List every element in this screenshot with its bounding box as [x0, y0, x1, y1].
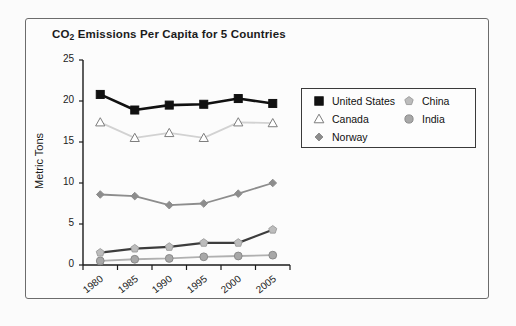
marker-square	[315, 97, 323, 105]
series-line	[100, 94, 273, 110]
marker-pentagon	[234, 239, 242, 247]
series-line	[100, 230, 273, 253]
series-line	[100, 183, 273, 205]
marker-square	[165, 101, 173, 109]
marker-diamond	[200, 200, 208, 208]
marker-diamond	[234, 190, 242, 198]
marker-pentagon	[405, 97, 413, 105]
marker-circle	[165, 255, 173, 263]
y-tick-label: 15	[50, 135, 74, 146]
marker-triangle	[165, 128, 174, 136]
marker-circle	[200, 253, 208, 261]
legend-item-united-states[interactable]: United States	[312, 95, 395, 107]
chart-legend: United StatesCanadaNorwayChinaIndia	[301, 88, 476, 148]
series-canada	[96, 118, 278, 142]
legend-label: India	[422, 113, 445, 125]
marker-pentagon	[131, 244, 139, 252]
legend-label: Canada	[332, 113, 369, 125]
plot-area	[0, 0, 516, 326]
series-line	[100, 255, 273, 261]
marker-circle	[405, 115, 413, 123]
series-china	[96, 226, 276, 257]
legend-item-india[interactable]: India	[402, 113, 445, 125]
legend-marker-square-icon	[312, 95, 326, 107]
marker-square	[200, 100, 208, 108]
marker-square	[269, 99, 277, 107]
legend-marker-pentagon-icon	[402, 95, 416, 107]
marker-circle	[96, 257, 104, 265]
marker-pentagon	[269, 226, 277, 234]
legend-label: China	[422, 95, 449, 107]
marker-circle	[269, 251, 277, 259]
series-norway	[96, 179, 276, 209]
marker-diamond	[96, 191, 104, 199]
marker-diamond	[315, 133, 323, 141]
marker-square	[131, 106, 139, 114]
marker-triangle	[314, 114, 324, 123]
y-tick-label: 10	[50, 176, 74, 187]
legend-marker-circle-icon	[402, 113, 416, 125]
marker-circle	[131, 255, 139, 263]
y-tick-label: 25	[50, 53, 74, 64]
series-india	[96, 251, 276, 265]
marker-diamond	[165, 201, 173, 209]
legend-marker-diamond-icon	[312, 131, 326, 143]
legend-marker-triangle-icon	[312, 113, 326, 125]
legend-label: Norway	[332, 131, 368, 143]
legend-item-norway[interactable]: Norway	[312, 131, 368, 143]
y-tick-label: 20	[50, 94, 74, 105]
marker-pentagon	[200, 239, 208, 247]
marker-pentagon	[96, 249, 104, 257]
legend-label: United States	[332, 95, 395, 107]
y-tick-label: 5	[50, 217, 74, 228]
series-united-states	[96, 90, 277, 114]
marker-triangle	[96, 118, 105, 126]
marker-square	[234, 95, 242, 103]
marker-diamond	[131, 192, 139, 200]
marker-diamond	[269, 179, 277, 187]
marker-pentagon	[165, 243, 173, 251]
legend-item-canada[interactable]: Canada	[312, 113, 369, 125]
y-tick-label: 0	[50, 258, 74, 269]
marker-square	[96, 90, 104, 98]
marker-circle	[234, 252, 242, 260]
series-line	[100, 122, 273, 138]
legend-item-china[interactable]: China	[402, 95, 449, 107]
chart-figure: CO2 Emissions Per Capita for 5 Countries…	[0, 0, 516, 326]
